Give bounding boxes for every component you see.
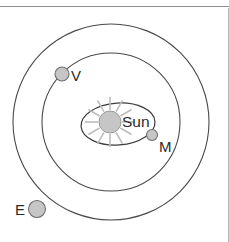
mercury-icon — [147, 130, 158, 141]
venus-label: V — [71, 67, 81, 84]
solar-system-diagram: Sun M V E — [0, 0, 229, 242]
sun-ray-icon — [88, 110, 99, 117]
sun-icon — [99, 111, 121, 133]
earth-icon — [29, 201, 46, 218]
sun-label: Sun — [122, 113, 150, 130]
earth-label: E — [15, 201, 25, 218]
sun-ray-icon — [116, 132, 123, 143]
sun-ray-icon — [88, 128, 99, 135]
mercury-label: M — [159, 138, 172, 155]
sun-ray-icon — [98, 132, 105, 143]
sun-ray-icon — [116, 100, 123, 111]
solar-system-canvas: Sun M V E — [0, 0, 229, 242]
venus-icon — [55, 67, 69, 81]
